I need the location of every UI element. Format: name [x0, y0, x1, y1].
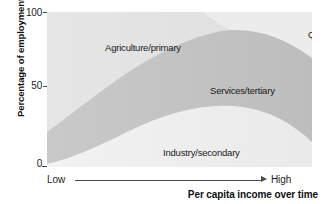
- y-axis-tick-label-0: 0: [18, 158, 42, 169]
- x-axis-label-low: Low: [47, 174, 65, 185]
- y-axis-title: Percentage of employment: [15, 0, 26, 138]
- plot-area: Agriculture/primary Services/tertiary In…: [47, 12, 312, 167]
- y-axis-tick-label-100: 100: [18, 7, 42, 18]
- band-label-quaternary: Quaternary: [308, 29, 312, 40]
- y-axis-tick-label-50: 50: [18, 80, 42, 91]
- x-axis-title: Per capita income over time: [0, 189, 318, 200]
- arrow-right-icon: [261, 176, 267, 182]
- band-label-services-tertiary: Services/tertiary: [210, 85, 275, 96]
- band-label-agriculture-primary: Agriculture/primary: [105, 42, 181, 53]
- band-label-industry-secondary: Industry/secondary: [163, 147, 240, 158]
- chart-figure: Percentage of employment 100 50 0: [0, 0, 327, 204]
- x-axis-arrow-line: [75, 180, 262, 181]
- x-axis-label-high: High: [271, 174, 291, 185]
